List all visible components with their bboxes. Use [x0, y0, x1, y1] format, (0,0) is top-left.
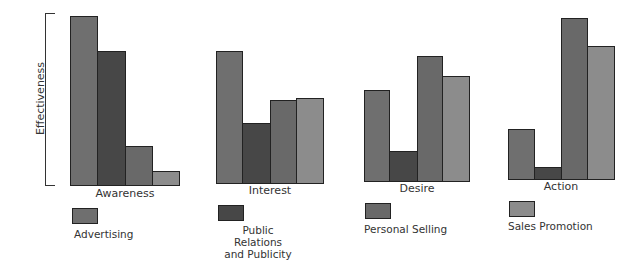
bar-awareness-public-relations [97, 51, 126, 186]
bar-interest-sales-promotion [296, 98, 324, 184]
legend-label-public-relations: Public Relations and Publicity [218, 224, 298, 260]
bar-awareness-personal-selling [125, 146, 153, 186]
legend-swatch-advertising [72, 208, 98, 224]
legend-label-advertising: Advertising [74, 228, 133, 240]
legend-label-sales-promotion: Sales Promotion [508, 220, 593, 232]
bar-desire-sales-promotion [442, 76, 470, 182]
bar-desire-public-relations [389, 151, 418, 182]
group-label-desire: Desire [362, 182, 472, 195]
bar-action-public-relations [534, 167, 562, 180]
bar-action-personal-selling [561, 18, 588, 180]
legend-label-personal-selling: Personal Selling [364, 223, 447, 235]
bar-interest-public-relations [242, 123, 271, 184]
group-label-interest: Interest [215, 184, 325, 197]
bar-interest-personal-selling [270, 100, 297, 184]
group-label-action: Action [506, 180, 616, 193]
bar-desire-advertising [364, 90, 390, 182]
bar-action-advertising [508, 129, 535, 180]
group-label-awareness: Awareness [70, 187, 180, 200]
bar-interest-advertising [216, 51, 243, 184]
legend-swatch-public-relations [218, 205, 244, 221]
y-axis-label: Effectiveness [34, 44, 47, 154]
legend-swatch-personal-selling [365, 203, 391, 219]
bar-action-sales-promotion [587, 46, 615, 180]
y-axis-bracket-bottom [45, 185, 55, 186]
y-axis-bracket-top [45, 13, 55, 14]
bar-awareness-sales-promotion [152, 171, 180, 186]
bar-awareness-advertising [70, 16, 98, 186]
bar-desire-personal-selling [417, 56, 443, 182]
legend-label-public-relations-line1: Public Relations [218, 224, 298, 248]
legend-swatch-sales-promotion [509, 201, 535, 217]
legend-label-public-relations-line2: and Publicity [218, 248, 298, 260]
